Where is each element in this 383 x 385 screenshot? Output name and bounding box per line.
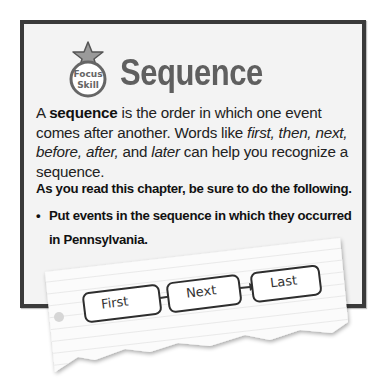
torn-paper-note [0, 0, 383, 385]
punch-hole [54, 312, 64, 322]
